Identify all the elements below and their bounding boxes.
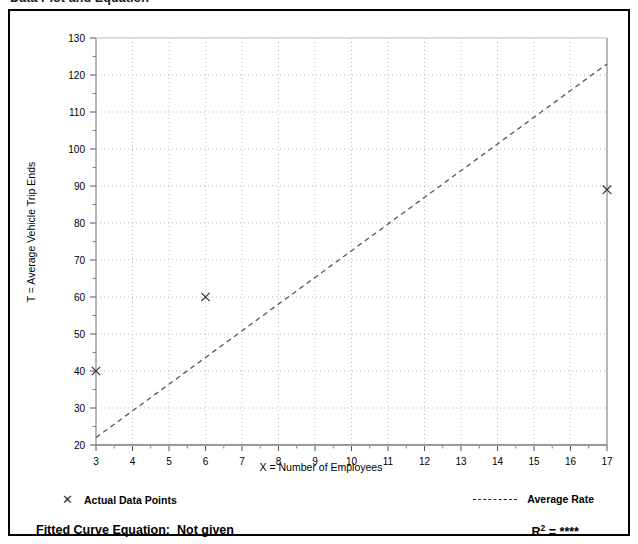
y-tick-label: 100: [68, 144, 85, 155]
x-marker-icon: ✕: [62, 493, 73, 506]
y-tick-label: 60: [74, 292, 86, 303]
y-tick-label: 20: [74, 440, 86, 451]
y-tick-label: 70: [74, 255, 86, 266]
y-tick-label: 130: [68, 33, 85, 44]
average-rate-trendline: [96, 64, 607, 438]
axis-ticks: [90, 38, 607, 451]
data-plot-svg: 34567891011121314151617 2030405060708090…: [10, 11, 632, 481]
y-tick-label: 40: [74, 366, 86, 377]
gridlines: [96, 38, 607, 445]
trendline-segment: [96, 64, 607, 438]
legend-label-data-points: Actual Data Points: [84, 494, 177, 506]
y-tick-label: 90: [74, 181, 86, 192]
r-squared-value: R2 = ****: [532, 523, 579, 539]
r-equals: =: [545, 525, 559, 539]
r-symbol: R: [532, 525, 541, 539]
page-title: Data Plot and Equation: [10, 0, 149, 5]
dashed-line-icon: [473, 499, 517, 500]
y-tick-label: 50: [74, 329, 86, 340]
equation-row: Fitted Curve Equation: Not given R2 = **…: [10, 523, 632, 544]
y-tick-label: 120: [68, 70, 85, 81]
chart-legend: ✕ Actual Data Points Average Rate: [10, 493, 632, 515]
r-value: ****: [560, 525, 579, 539]
y-tick-labels: 2030405060708090100110120130: [68, 33, 85, 451]
fitted-curve-equation: Fitted Curve Equation: Not given: [36, 523, 234, 537]
legend-label-average-rate: Average Rate: [527, 493, 594, 505]
equation-label: Fitted Curve Equation:: [36, 523, 170, 537]
y-tick-label: 30: [74, 403, 86, 414]
legend-entry-data-points: ✕ Actual Data Points: [62, 493, 177, 506]
chart-panel: 34567891011121314151617 2030405060708090…: [8, 9, 630, 536]
legend-entry-average-rate: Average Rate: [473, 493, 594, 505]
x-axis-title: X = Number of Employees: [10, 461, 632, 473]
y-tick-label: 80: [74, 218, 86, 229]
y-tick-label: 110: [69, 107, 85, 118]
y-axis-title: T = Average Vehicle Trip Ends: [25, 132, 37, 332]
chart-area: 34567891011121314151617 2030405060708090…: [10, 11, 632, 481]
axis-lines: [96, 38, 607, 445]
equation-value: Not given: [177, 523, 234, 537]
